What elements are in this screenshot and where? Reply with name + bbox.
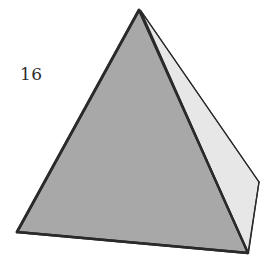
figure-canvas: 16 [0,0,279,257]
pyramid-diagram [0,0,279,257]
figure-number-label: 16 [20,66,43,83]
